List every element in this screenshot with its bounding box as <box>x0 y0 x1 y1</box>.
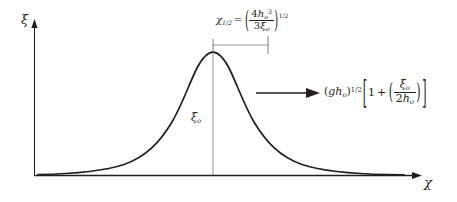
inner-left-paren-icon: ( <box>389 82 393 103</box>
soliton-curve <box>38 52 404 175</box>
y-axis <box>31 19 37 176</box>
gh-exponent: 1/2 <box>351 86 362 94</box>
wave-speed-denominator: 2ho <box>394 92 416 106</box>
half-width-denominator-subscript: o <box>266 25 270 32</box>
half-width-fraction: 4ho3 3ξo <box>249 9 274 33</box>
wave-speed-denominator-coefficient: 2 <box>396 92 403 105</box>
wave-speed-numerator: ξo <box>394 79 416 92</box>
half-width-formula: χ1/2=( 4ho3 3ξo )1/2 <box>216 9 288 33</box>
x-axis-label: χ <box>424 176 432 189</box>
half-width-fraction-group: ( 4ho3 3ξo )1/2 <box>244 9 288 33</box>
wave-speed-gh-group: (gho)1/2 <box>324 86 362 99</box>
left-paren-icon: ( <box>245 9 249 33</box>
wave-speed-denominator-symbol: h <box>403 92 410 105</box>
wave-speed-fraction: ξo 2ho <box>394 79 416 107</box>
half-width-lhs-subscript: 1/2 <box>222 19 232 26</box>
amplitude-label: ξo <box>191 112 201 125</box>
soliton-figure: ξ χ ξo χ1/2=( 4ho3 3ξo )1/2 (gho)1/2[1+(… <box>0 0 457 202</box>
wave-speed-denominator-subscript: o <box>410 98 414 106</box>
half-width-numerator-exponent: 3 <box>268 8 272 15</box>
amplitude-subscript: o <box>197 117 201 125</box>
half-width-outer-exponent: 1/2 <box>279 12 289 19</box>
wave-speed-formula: (gho)1/2[1+( ξo 2ho )] <box>324 79 427 107</box>
half-width-numerator: 4ho3 <box>249 9 274 20</box>
half-width-denominator: 3ξo <box>249 20 274 32</box>
wave-speed-plus: + <box>375 86 388 99</box>
wave-speed-numerator-subscript: o <box>406 84 410 92</box>
inner-right-paren-icon: ) <box>416 82 420 103</box>
left-bracket-icon: [ <box>363 77 367 109</box>
right-paren-icon: ) <box>274 9 278 33</box>
right-bracket-icon: ] <box>422 77 426 109</box>
y-axis-label: ξ <box>21 13 28 26</box>
half-width-equals: = <box>232 14 244 25</box>
wave-speed-pointer-arrow <box>256 88 320 98</box>
half-width-dimension <box>213 36 268 54</box>
